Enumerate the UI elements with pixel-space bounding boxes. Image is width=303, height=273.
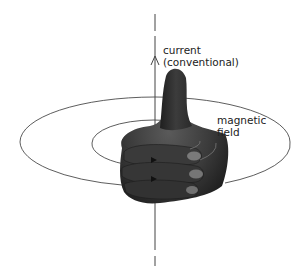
field-label-line1: magnetic — [217, 114, 266, 126]
thumbs-up-hand — [120, 69, 228, 204]
current-label-line2: (conventional) — [163, 56, 239, 68]
field-label-line2: field — [217, 126, 266, 138]
current-label: current (conventional) — [163, 44, 239, 68]
magnetic-field-label: magnetic field — [217, 114, 266, 138]
current-label-line1: current — [163, 44, 239, 56]
